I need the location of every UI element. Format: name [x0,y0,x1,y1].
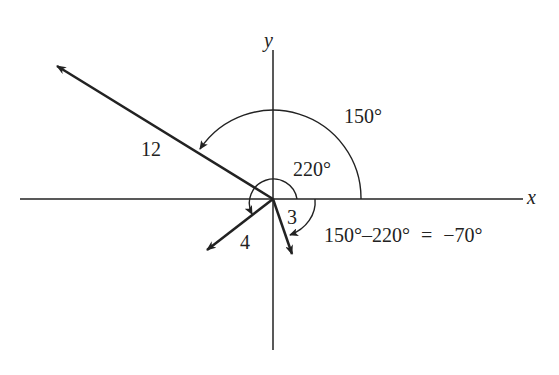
angle-150-arc [200,110,361,199]
vector-diagram: y x 12 4 3 150° 220° 150°–220° = −70° [0,0,559,375]
x-axis-label: x [527,187,536,207]
angle-difference-label: 150°–220° = −70° [324,225,483,245]
diagram-canvas [0,0,559,375]
angle-150-label: 150° [344,106,382,126]
y-axis-label: y [264,30,273,50]
vector-4-label: 4 [240,232,250,252]
vector-12-arrow [57,66,273,199]
vector-12-label: 12 [141,139,161,159]
angle-220-label: 220° [293,159,331,179]
vector-3-label: 3 [287,207,297,227]
